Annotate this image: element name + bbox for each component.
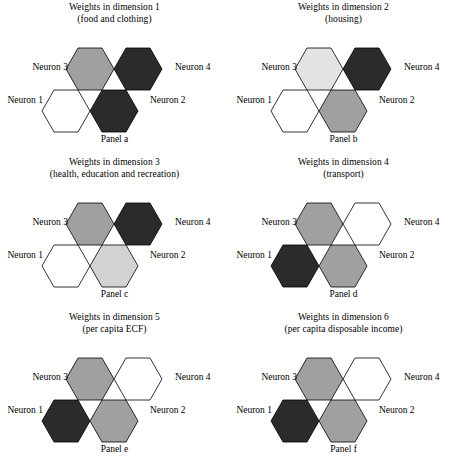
neuron-1-label: Neuron 1 <box>236 250 272 261</box>
neuron-1-label: Neuron 1 <box>236 405 272 416</box>
panel-d: Weights in dimension 4 (transport) Neuro… <box>229 155 458 310</box>
hexagon-grid-svg <box>229 155 458 310</box>
hex-neuron-4[interactable] <box>343 203 391 245</box>
neuron-4-label: Neuron 4 <box>404 62 440 73</box>
neuron-2-label: Neuron 2 <box>379 250 415 261</box>
hex-neuron-3[interactable] <box>295 358 343 400</box>
panel-caption: Panel d <box>229 289 458 299</box>
panel-caption: Panel a <box>0 134 229 144</box>
neuron-3-label: Neuron 3 <box>32 217 68 228</box>
hexagon-map: Neuron 3 Neuron 4 Neuron 1 Neuron 2 <box>0 0 229 155</box>
hex-neuron-1[interactable] <box>271 400 319 442</box>
neuron-2-label: Neuron 2 <box>379 405 415 416</box>
neuron-4-label: Neuron 4 <box>175 217 211 228</box>
neuron-4-label: Neuron 4 <box>404 217 440 228</box>
hexagon-map: Neuron 3 Neuron 4 Neuron 1 Neuron 2 <box>229 155 458 310</box>
hex-neuron-4[interactable] <box>114 48 162 90</box>
hex-neuron-3[interactable] <box>66 203 114 245</box>
hex-neuron-2[interactable] <box>90 400 138 442</box>
hexagon-grid-svg <box>229 0 458 155</box>
hexagon-grid-svg <box>0 0 229 155</box>
hex-neuron-3[interactable] <box>66 48 114 90</box>
neuron-2-label: Neuron 2 <box>150 405 186 416</box>
hex-neuron-3[interactable] <box>295 48 343 90</box>
panel-e: Weights in dimension 5 (per capita ECF) … <box>0 310 229 464</box>
hex-neuron-2[interactable] <box>90 90 138 132</box>
panel-c: Weights in dimension 3 (health, educatio… <box>0 155 229 310</box>
hexagon-map: Neuron 3 Neuron 4 Neuron 1 Neuron 2 <box>0 155 229 310</box>
som-weight-maps-figure: Weights in dimension 1 (food and clothin… <box>0 0 458 464</box>
neuron-4-label: Neuron 4 <box>404 372 440 383</box>
hex-neuron-3[interactable] <box>66 358 114 400</box>
neuron-3-label: Neuron 3 <box>32 62 68 73</box>
neuron-3-label: Neuron 3 <box>261 62 297 73</box>
neuron-3-label: Neuron 3 <box>32 372 68 383</box>
neuron-4-label: Neuron 4 <box>175 62 211 73</box>
panel-caption: Panel c <box>0 289 229 299</box>
hex-neuron-4[interactable] <box>343 358 391 400</box>
hexagon-grid-svg <box>0 310 229 464</box>
panel-caption: Panel f <box>229 444 458 454</box>
hex-neuron-2[interactable] <box>319 400 367 442</box>
hex-neuron-4[interactable] <box>114 203 162 245</box>
hexagon-map: Neuron 3 Neuron 4 Neuron 1 Neuron 2 <box>229 310 458 464</box>
hex-neuron-4[interactable] <box>114 358 162 400</box>
panel-a: Weights in dimension 1 (food and clothin… <box>0 0 229 155</box>
hex-neuron-2[interactable] <box>90 245 138 287</box>
hex-neuron-4[interactable] <box>343 48 391 90</box>
hex-neuron-1[interactable] <box>271 245 319 287</box>
panel-caption: Panel e <box>0 444 229 454</box>
neuron-1-label: Neuron 1 <box>7 250 43 261</box>
hexagon-map: Neuron 3 Neuron 4 Neuron 1 Neuron 2 <box>229 0 458 155</box>
panel-caption: Panel b <box>229 134 458 144</box>
neuron-2-label: Neuron 2 <box>150 250 186 261</box>
neuron-3-label: Neuron 3 <box>261 217 297 228</box>
hexagon-grid-svg <box>229 310 458 464</box>
neuron-1-label: Neuron 1 <box>7 405 43 416</box>
neuron-1-label: Neuron 1 <box>236 95 272 106</box>
hex-neuron-2[interactable] <box>319 245 367 287</box>
hex-neuron-1[interactable] <box>42 90 90 132</box>
hexagon-grid-svg <box>0 155 229 310</box>
hex-neuron-2[interactable] <box>319 90 367 132</box>
hex-neuron-1[interactable] <box>42 400 90 442</box>
panel-b: Weights in dimension 2 (housing) Neuron … <box>229 0 458 155</box>
neuron-3-label: Neuron 3 <box>261 372 297 383</box>
neuron-4-label: Neuron 4 <box>175 372 211 383</box>
hex-neuron-3[interactable] <box>295 203 343 245</box>
hexagon-map: Neuron 3 Neuron 4 Neuron 1 Neuron 2 <box>0 310 229 464</box>
hex-neuron-1[interactable] <box>42 245 90 287</box>
panel-f: Weights in dimension 6 (per capita dispo… <box>229 310 458 464</box>
neuron-2-label: Neuron 2 <box>379 95 415 106</box>
neuron-1-label: Neuron 1 <box>7 95 43 106</box>
hex-neuron-1[interactable] <box>271 90 319 132</box>
neuron-2-label: Neuron 2 <box>150 95 186 106</box>
